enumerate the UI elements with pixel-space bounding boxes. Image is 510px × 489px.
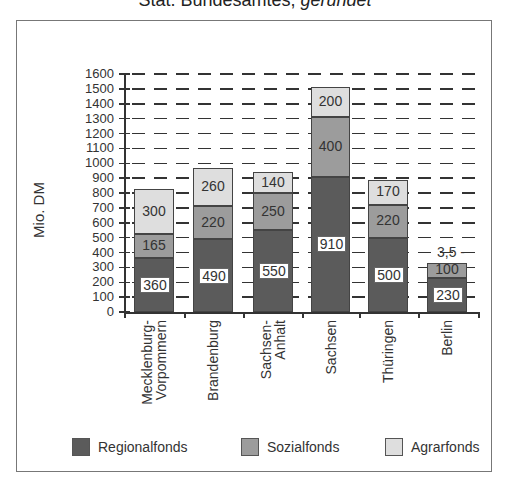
gridline [132,207,482,209]
y-tick-label: 1600 [74,67,114,80]
x-category-label-line: Mecklenburg- [140,320,154,430]
x-category-label: Sachsen [324,320,338,430]
y-tick-label: 0 [74,305,114,318]
x-category-label: Mecklenburg-Vorpommern [140,320,168,430]
y-tick [119,267,130,269]
y-tick-label: 500 [74,231,114,244]
value-label: 230 [433,287,463,303]
y-axis-label: Mio. DM [30,182,47,238]
y-tick [119,222,130,224]
value-label: 165 [134,238,174,252]
x-category-label-line: Brandenburg [206,320,220,430]
x-tick [184,312,186,318]
value-label: 500 [374,267,404,283]
gridline [132,222,482,224]
y-tick [119,88,130,90]
gridline [132,192,482,194]
gridline [132,73,482,75]
gridline [132,148,482,150]
gridline [132,88,482,90]
gridline [132,163,482,165]
x-tick [302,312,304,318]
y-tick-label: 100 [74,290,114,303]
value-label: 250 [253,204,293,218]
gridline [132,118,482,120]
legend-item-regionalfonds: Regionalfonds [72,438,188,456]
value-label: 140 [253,175,293,189]
x-category-label: Brandenburg [206,320,220,430]
y-tick [119,103,130,105]
y-tick [119,148,130,150]
value-label: 490 [199,268,229,284]
legend-label: Sozialfonds [267,439,339,455]
x-category-label-line: Sachsen- [259,320,273,430]
x-tick [359,312,361,318]
legend-swatch [72,438,90,456]
x-tick [478,312,480,318]
legend-label: Regionalfonds [98,439,188,455]
y-tick [119,163,130,165]
y-tick [119,177,130,179]
value-label: 3,5 - [431,245,471,259]
x-tick [243,312,245,318]
y-tick-label: 300 [74,260,114,273]
x-category-label-line: Sachsen [324,320,338,430]
y-tick-label: 1500 [74,82,114,95]
legend-label: Agrarfonds [411,439,479,455]
y-tick-label: 1300 [74,112,114,125]
legend-swatch [385,438,403,456]
y-tick-label: 1100 [74,141,114,154]
value-label: 300 [134,204,174,218]
y-tick [119,237,130,239]
gridline [132,252,482,254]
x-category-label-line: Vorpommern [154,320,168,430]
gridline [132,133,482,135]
y-tick [119,118,130,120]
value-label: 360 [140,277,170,293]
y-tick [119,133,130,135]
y-tick [119,207,130,209]
y-tick [119,73,130,75]
chart-title: Stat. Bundesamtes, gerundet [0,0,510,11]
value-label: 260 [193,179,233,193]
y-tick-label: 800 [74,186,114,199]
value-label: 910 [317,236,346,252]
y-tick-label: 1400 [74,97,114,110]
gridline [132,103,482,105]
y-tick-label: 1000 [74,156,114,169]
y-tick-label: 900 [74,171,114,184]
value-label: 220 [368,213,408,227]
value-label: 100 [427,262,467,276]
value-label: 170 [368,184,408,198]
value-label: 400 [311,139,350,153]
value-label: 550 [259,263,289,279]
y-tick [119,192,130,194]
x-category-label: Sachsen-Anhalt [259,320,287,430]
gridline [132,177,482,179]
y-tick [119,296,130,298]
value-label: 220 [193,215,233,229]
y-tick-label: 600 [74,216,114,229]
value-label: 200 [311,94,350,108]
x-category-label-line: Thüringen [381,320,395,430]
x-category-label-line: Berlin [440,320,454,430]
x-category-label-line: Anhalt [273,320,287,430]
y-tick-label: 400 [74,246,114,259]
y-tick [119,252,130,254]
x-category-label: Thüringen [381,320,395,430]
x-tick [124,312,126,318]
y-tick-label: 200 [74,275,114,288]
y-tick-label: 1200 [74,127,114,140]
x-category-label: Berlin [440,320,454,430]
legend-swatch [241,438,259,456]
y-tick [119,282,130,284]
legend-item-sozialfonds: Sozialfonds [241,438,339,456]
x-tick [418,312,420,318]
legend-item-agrarfonds: Agrarfonds [385,438,479,456]
gridline [132,237,482,239]
y-tick-label: 700 [74,201,114,214]
